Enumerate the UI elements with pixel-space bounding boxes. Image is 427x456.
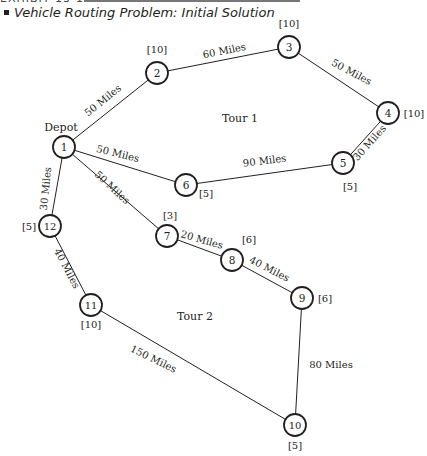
tour1-label: Tour 1 [222, 112, 258, 125]
edge-distance-label: 90 Miles [242, 152, 287, 168]
edge-12-1 [50, 147, 64, 226]
edge-1-2 [64, 73, 157, 147]
node-6-label: 6 [183, 179, 190, 191]
tour2-label: Tour 2 [177, 310, 213, 323]
node-5-demand: [5] [343, 181, 357, 192]
node-11-demand: [10] [81, 319, 102, 330]
node-2-demand: [10] [147, 44, 168, 55]
edge-distance-label: 80 Miles [309, 359, 353, 370]
node-6-demand: [5] [199, 188, 213, 199]
edge-distance-label: 30 Miles [351, 123, 388, 163]
edge-distance-label: 50 Miles [82, 82, 123, 118]
edge-distance-label: 50 Miles [95, 143, 140, 164]
edge-distance-label: 60 Miles [202, 41, 247, 60]
edge-distance-label: 150 Miles [129, 343, 179, 375]
edge-3-4 [289, 47, 388, 113]
node-7-label: 7 [164, 230, 171, 242]
node-2-label: 2 [154, 67, 161, 79]
edge-5-6 [186, 163, 343, 185]
edge-distance-label: 30 Miles [38, 166, 53, 211]
nodes-layer: 123456789101112 [39, 36, 399, 436]
edge-distance-label: 50 Miles [93, 169, 132, 207]
node-12-label: 12 [44, 221, 57, 232]
node-8-label: 8 [229, 254, 236, 266]
node-4-demand: [10] [404, 108, 425, 119]
node-10-label: 10 [289, 420, 302, 431]
edge-distance-label: 50 Miles [330, 57, 374, 87]
node-12-demand: [5] [22, 221, 36, 232]
node-10-demand: [5] [288, 440, 302, 451]
node-9-label: 9 [299, 292, 306, 304]
depot-label: Depot [44, 121, 78, 134]
node-5-label: 5 [340, 157, 347, 169]
routing-graph: 50 Miles60 Miles50 Miles30 Miles90 Miles… [0, 0, 427, 456]
edge-10-11 [91, 305, 295, 425]
node-9-demand: [6] [318, 293, 332, 304]
node-3-label: 3 [286, 41, 293, 53]
node-4-label: 4 [385, 107, 392, 119]
node-11-label: 11 [85, 300, 98, 311]
node-1-label: 1 [61, 141, 68, 153]
edge-9-10 [295, 298, 302, 425]
edge-distance-label: 40 Miles [248, 254, 292, 284]
node-3-demand: [10] [279, 18, 300, 29]
edge-distance-label: 20 Miles [179, 228, 224, 251]
node-8-demand: [6] [242, 234, 256, 245]
edge-distance-label: 40 Miles [52, 247, 82, 291]
node-7-demand: [3] [163, 210, 177, 221]
